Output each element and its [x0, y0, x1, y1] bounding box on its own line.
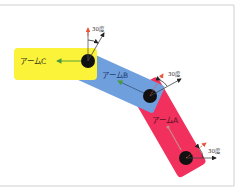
arm-b-label: アームB — [102, 71, 128, 80]
arm-c-label: アームC — [20, 57, 46, 66]
angle-label-b: 30度 — [168, 70, 181, 78]
angle-label-c: 30度 — [92, 25, 105, 33]
robot-arm-diagram: 30度 30度 30度 アームC アームB アームA — [0, 0, 239, 190]
arm-a-label: アームA — [152, 116, 179, 125]
angle-label-a: 30度 — [208, 147, 221, 155]
